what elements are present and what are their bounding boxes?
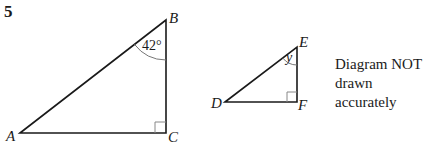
- note-line-2: drawn accurately: [335, 74, 430, 112]
- angle-e-variable: y: [284, 50, 293, 65]
- vertex-label-c: C: [168, 129, 179, 145]
- note-line-1: Diagram NOT: [335, 55, 430, 74]
- vertex-label-f: F: [297, 97, 308, 113]
- triangle-abc-shape: [20, 20, 166, 133]
- triangle-abc: 42° A B C: [5, 10, 179, 145]
- vertex-label-d: D: [210, 95, 222, 111]
- vertex-label-e: E: [298, 34, 308, 50]
- diagram-note: Diagram NOT drawn accurately: [335, 55, 430, 112]
- right-angle-marker-f: [287, 92, 297, 102]
- vertex-label-a: A: [5, 128, 16, 144]
- vertex-label-b: B: [169, 10, 178, 26]
- right-angle-marker-c: [155, 122, 166, 133]
- angle-b-value: 42°: [142, 38, 162, 53]
- triangle-def: y D E F: [210, 34, 308, 113]
